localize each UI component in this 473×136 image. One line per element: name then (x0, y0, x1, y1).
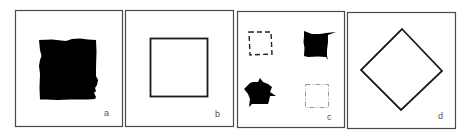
panel-label-a: a (104, 108, 109, 118)
panel-c: c (238, 12, 345, 128)
panel-d: d (348, 13, 456, 129)
panel-label-b: b (215, 109, 220, 119)
panel-c-frame (238, 12, 345, 128)
panel-label-c: c (327, 112, 332, 122)
panel-label-d: d (438, 111, 443, 121)
figure: a b c d (0, 0, 473, 136)
panel-b: b (126, 11, 234, 127)
panel-a: a (16, 11, 123, 127)
filled-blob-shape (39, 39, 98, 101)
